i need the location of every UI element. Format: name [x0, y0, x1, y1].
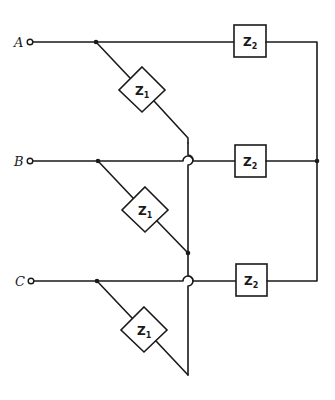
wire-b-z1-out [157, 221, 188, 253]
terminal-label-a: A [13, 35, 23, 50]
wire-a-z2-out [266, 42, 317, 161]
circuit-diagram: A Z1 Z2 B Z1 Z2 C [0, 0, 335, 400]
phase-c: C Z1 Z2 [15, 161, 317, 375]
wire-b-z1-in [98, 161, 133, 198]
wire-c-z2-out [267, 161, 317, 281]
terminal-c [28, 278, 34, 284]
phase-a: A Z1 Z2 [13, 25, 317, 161]
terminal-label-c: C [15, 274, 25, 289]
wire-c-main [34, 276, 236, 281]
terminal-label-b: B [13, 154, 24, 169]
wire-c-z1-in [97, 281, 132, 318]
z1-neutral-bus [188, 143, 193, 375]
wire-b-main [33, 156, 235, 161]
phase-b: B Z1 Z2 [13, 145, 319, 255]
junction-z1-neutral [186, 251, 191, 256]
z1-neutral-wire [188, 143, 193, 375]
wire-a-z1-in [96, 42, 130, 78]
terminal-a [27, 39, 33, 45]
wire-c-z1-out [156, 341, 188, 375]
terminal-b [27, 158, 33, 164]
wire-a-z1-out [154, 101, 188, 143]
